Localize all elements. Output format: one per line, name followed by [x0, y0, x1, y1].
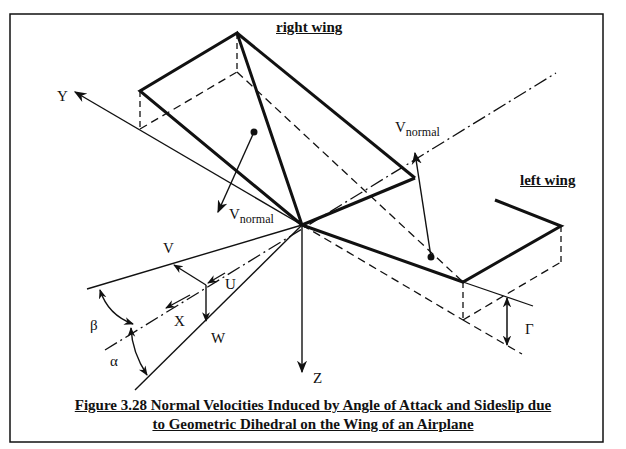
- v-normal-sub: normal: [240, 212, 274, 226]
- v-normal-label-right: Vnormal: [229, 207, 274, 225]
- x-axis-line: [105, 73, 556, 350]
- right-wing-label: right wing: [276, 20, 342, 35]
- v-normal-sub: normal: [406, 125, 440, 139]
- v-normal-main: V: [229, 206, 240, 222]
- alpha-arc: [131, 328, 147, 375]
- v-component-arrow: [174, 265, 206, 285]
- u-label: U: [225, 277, 236, 292]
- gamma-label: Γ: [525, 322, 534, 337]
- figure-caption-line2: to Geometric Dihedral on the Wing of an …: [0, 415, 626, 434]
- alpha-label: α: [110, 354, 118, 369]
- beta-label: β: [90, 318, 98, 333]
- v-normal-label-left: Vnormal: [395, 120, 440, 138]
- v-normal-main: V: [395, 119, 406, 135]
- x-axis-label: X: [174, 314, 185, 329]
- y-axis-label: Y: [57, 89, 68, 104]
- z-axis-label: Z: [313, 371, 322, 386]
- y-axis-arrow: [75, 92, 302, 225]
- diagram-figure: right wing left wing Y Z X V U W β α Γ V…: [0, 0, 626, 449]
- v-label: V: [163, 241, 174, 256]
- beta-arc: [100, 290, 133, 324]
- x-direction-arrow: [166, 295, 190, 308]
- left-wing-label: left wing: [520, 173, 575, 188]
- angle-arcs: [100, 290, 147, 375]
- w-label: W: [211, 331, 225, 346]
- axes: [75, 73, 556, 390]
- figure-caption-line1: Figure 3.28 Normal Velocities Induced by…: [0, 396, 626, 415]
